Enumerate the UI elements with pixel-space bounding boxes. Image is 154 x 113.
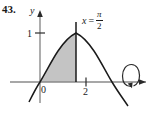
y-tick-label-1: 1 xyxy=(27,29,32,39)
sine-curve xyxy=(29,33,128,106)
equation-variable: x xyxy=(82,16,86,26)
fraction-numerator: π xyxy=(96,10,103,19)
axis-arrowhead xyxy=(37,10,43,17)
figure-container: 43. y 1 0 2 x = π 2 xyxy=(0,0,154,113)
y-axis-label: y xyxy=(30,6,34,16)
vertical-line-equation-label: x = π 2 xyxy=(82,10,103,31)
plot-svg xyxy=(0,0,154,113)
problem-number: 43. xyxy=(2,4,16,15)
axis-arrowhead xyxy=(139,79,146,85)
fraction-denominator: 2 xyxy=(96,22,103,31)
rotation-arrow-icon xyxy=(123,65,140,89)
x-tick-label-2: 2 xyxy=(83,87,88,97)
shaded-region xyxy=(40,33,76,82)
equation-equals-sign: = xyxy=(88,16,94,26)
x-tick-label-0: 0 xyxy=(41,85,46,95)
equation-fraction: π 2 xyxy=(96,10,103,31)
